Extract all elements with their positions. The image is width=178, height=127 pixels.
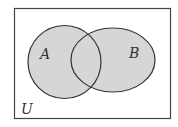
venn-diagram: A B U [0,0,178,127]
set-a-label: A [38,46,50,62]
set-b-label: B [128,45,139,61]
universe-label: U [21,101,34,117]
